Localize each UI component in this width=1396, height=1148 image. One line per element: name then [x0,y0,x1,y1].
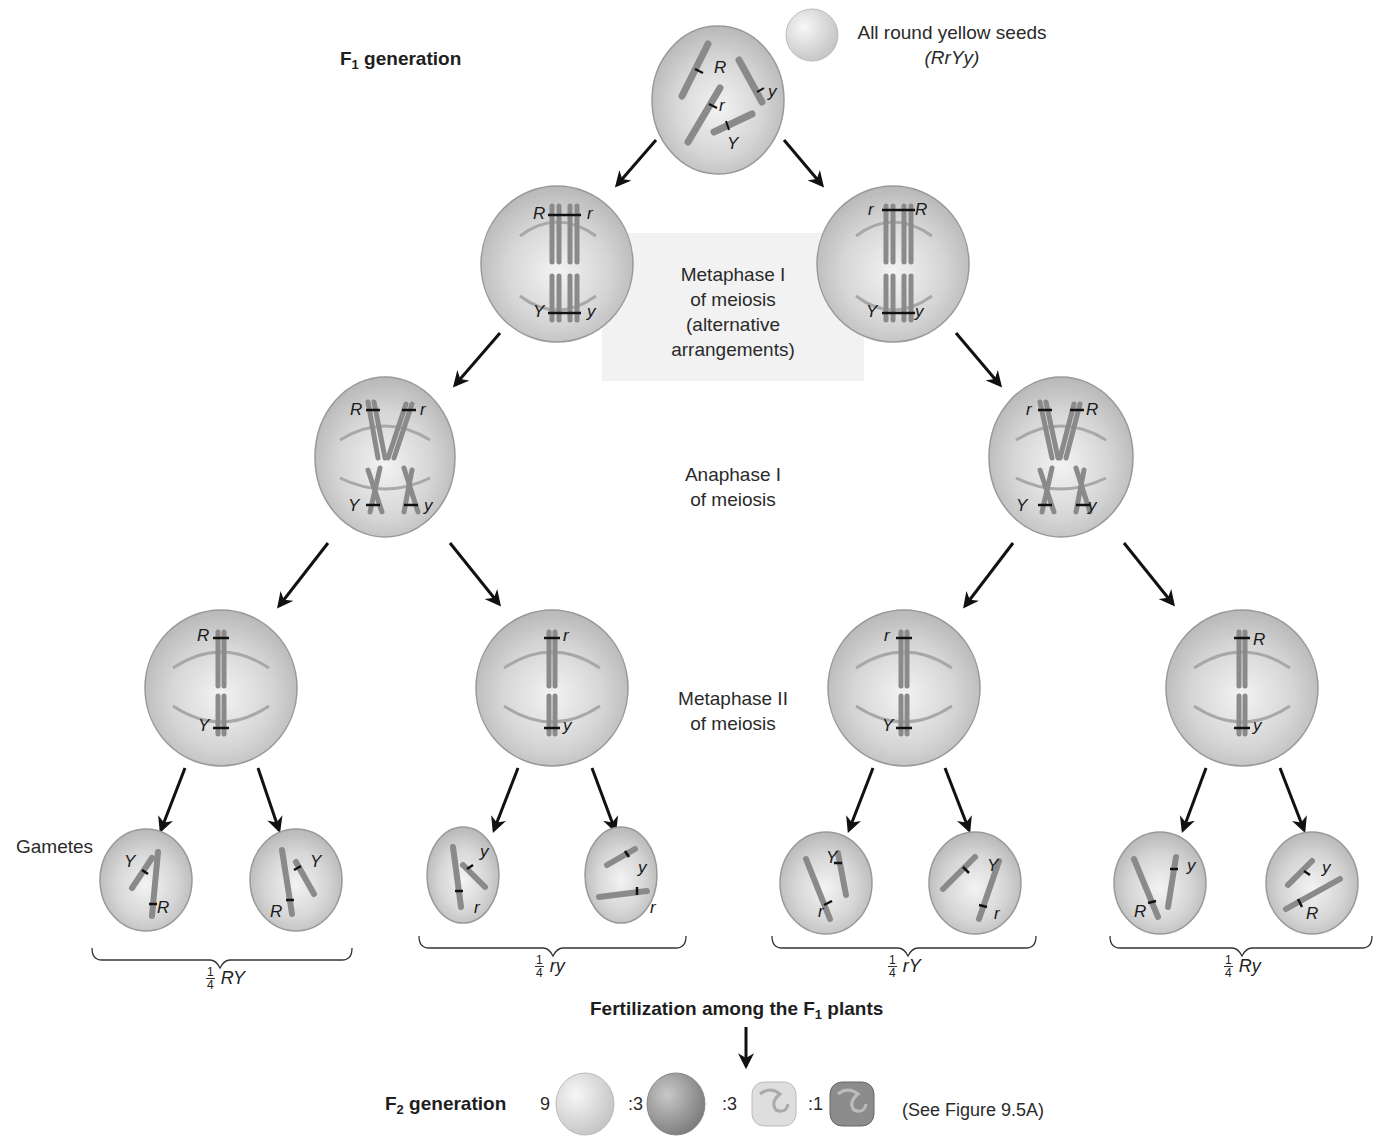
seed-note-line1: All round yellow seeds [842,20,1062,45]
allele-label: R [533,204,545,224]
allele-label: r [1026,400,1032,420]
gamete-braces [92,936,1372,968]
allele-label: r [719,96,725,116]
allele-label: Y [124,852,135,872]
gamete-fraction-ry: 14ry [535,954,565,979]
allele-label: Y [866,302,877,322]
allele-label: Y [348,496,359,516]
gamete-fraction-Ry: 14Ry [1224,954,1261,979]
allele-label: R [1306,904,1318,924]
allele-label: r [587,204,593,224]
metaphase1-left-cell [481,186,633,342]
anaphase1-left-cell [315,377,455,537]
allele-label: R [1253,630,1265,650]
allele-label: r [650,898,656,918]
round-green-seed-icon [647,1073,705,1135]
allele-label: y [1187,856,1196,876]
allele-label: Y [198,716,209,736]
allele-label: r [884,626,890,646]
ratio-round-green: :3 [628,1094,643,1115]
allele-label: r [420,400,426,420]
allele-label: r [474,898,480,918]
allele-label: Y [533,302,544,322]
figure-reference: (See Figure 9.5A) [902,1100,1044,1121]
allele-label: Y [310,852,321,872]
allele-label: R [915,200,927,220]
gametes-label: Gametes [16,834,93,859]
allele-label: y [1322,858,1331,878]
round-yellow-seed-icon [556,1073,614,1135]
metaphase2-label: Metaphase IIof meiosis [640,686,826,736]
allele-label: R [157,898,169,918]
allele-label: R [1134,902,1146,922]
allele-label: y [638,858,647,878]
allele-label: r [818,902,824,922]
f1-generation-label: F1 generation [340,48,461,70]
allele-label: Y [882,716,893,736]
gamete-fraction-rY: 14rY [888,954,921,979]
round-yellow-seed-icon [786,9,838,61]
anaphase1-label: Anaphase Iof meiosis [640,462,826,512]
allele-label: y [480,842,489,862]
allele-label: R [350,400,362,420]
seed-note-genotype: (RrYy) [842,45,1062,70]
gamete-fraction-RY: 14RY [206,966,245,991]
allele-label: y [1253,716,1262,736]
allele-label: R [197,626,209,646]
allele-label: r [994,904,1000,924]
allele-label: y [1088,496,1097,516]
allele-label: y [563,716,572,736]
metaphase1-right-cell [817,186,969,342]
fertilization-label: Fertilization among the F1 plants [590,998,883,1020]
allele-label: r [563,626,569,646]
f1-cell [652,26,784,174]
allele-label: Y [826,848,837,868]
f2-seeds [556,1073,874,1135]
allele-label: r [868,200,874,220]
allele-label: R [1086,400,1098,420]
allele-label: Y [1016,496,1027,516]
seed-note: All round yellow seeds (RrYy) [842,20,1062,70]
ratio-wrinkled-green: :1 [808,1094,823,1115]
anaphase1-right-cell [989,377,1133,537]
allele-label: y [424,496,433,516]
gamete-cells [100,827,1358,934]
allele-label: y [915,302,924,322]
ratio-round-yellow: 9 [540,1094,550,1115]
allele-label: Y [987,856,998,876]
allele-label: y [768,82,777,102]
metaphase1-label: Metaphase Iof meiosis(alternativearrange… [640,262,826,362]
allele-label: R [714,58,726,78]
f2-generation-label: F2 generation [385,1093,506,1115]
allele-label: Y [727,134,738,154]
ratio-wrinkled-yellow: :3 [722,1094,737,1115]
allele-label: y [587,302,596,322]
allele-label: R [270,902,282,922]
